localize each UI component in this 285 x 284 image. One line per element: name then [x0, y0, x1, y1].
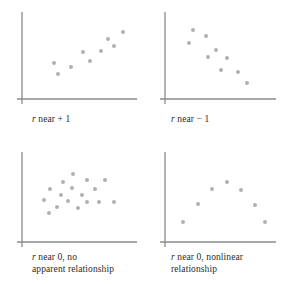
data-point — [210, 187, 214, 191]
data-point — [76, 206, 80, 210]
data-point — [206, 55, 210, 59]
data-point — [93, 187, 97, 191]
panel-r-near-negative-one: r near − 1 — [143, 0, 285, 142]
data-point — [225, 180, 229, 184]
data-point — [85, 178, 89, 182]
axes-bottom-left — [0, 142, 142, 262]
caption-bottom-right: r near 0, nonlinear relationship — [171, 252, 283, 275]
plot-area-top-left — [0, 0, 142, 120]
data-point — [80, 193, 84, 197]
caption-text-top-left: near + 1 — [36, 114, 70, 124]
data-point — [191, 28, 195, 32]
axes-top-right — [143, 0, 285, 120]
caption-top-right: r near − 1 — [171, 114, 283, 126]
plot-area-bottom-left — [0, 142, 142, 262]
data-point — [253, 203, 257, 207]
data-point — [42, 198, 46, 202]
data-point — [181, 220, 185, 224]
data-point — [187, 41, 191, 45]
data-point — [112, 44, 116, 48]
caption-text-bottom-right: near 0, nonlinear relationship — [171, 252, 243, 274]
data-point — [245, 81, 249, 85]
data-point — [59, 193, 63, 197]
data-point — [99, 49, 103, 53]
data-point — [121, 30, 125, 34]
data-point — [69, 65, 73, 69]
plot-area-bottom-right — [143, 142, 285, 262]
axes-top-left — [0, 0, 142, 120]
data-point — [85, 200, 89, 204]
data-point — [219, 68, 223, 72]
plot-area-top-right — [143, 0, 285, 120]
data-point — [236, 70, 240, 74]
data-point — [106, 37, 110, 41]
data-point — [48, 187, 52, 191]
caption-bottom-left: r near 0, no apparent relationship — [32, 252, 144, 275]
data-point — [112, 200, 116, 204]
data-point — [47, 211, 51, 215]
axes-bottom-right — [143, 142, 285, 262]
data-point — [239, 188, 243, 192]
data-point — [71, 172, 75, 176]
data-point — [55, 205, 59, 209]
data-point — [214, 48, 218, 52]
data-point — [52, 61, 56, 65]
panel-r-near-zero-no-relationship: r near 0, no apparent relationship — [0, 142, 142, 284]
data-point — [70, 186, 74, 190]
data-point — [81, 50, 85, 54]
panel-r-near-positive-one: r near + 1 — [0, 0, 142, 142]
data-point — [225, 56, 229, 60]
caption-text-top-right: near − 1 — [175, 114, 209, 124]
caption-top-left: r near + 1 — [32, 114, 144, 126]
data-point — [88, 59, 92, 63]
data-point — [196, 202, 200, 206]
data-point — [103, 178, 107, 182]
caption-text-bottom-left: near 0, no apparent relationship — [32, 252, 114, 274]
data-point — [97, 200, 101, 204]
data-point — [61, 180, 65, 184]
panel-r-near-zero-nonlinear: r near 0, nonlinear relationship — [143, 142, 285, 284]
correlation-scatterplot-figure: r near + 1 r near − 1 r near 0, no appar… — [0, 0, 285, 284]
data-point — [204, 34, 208, 38]
data-point — [263, 220, 267, 224]
data-point — [56, 72, 60, 76]
data-point — [66, 199, 70, 203]
